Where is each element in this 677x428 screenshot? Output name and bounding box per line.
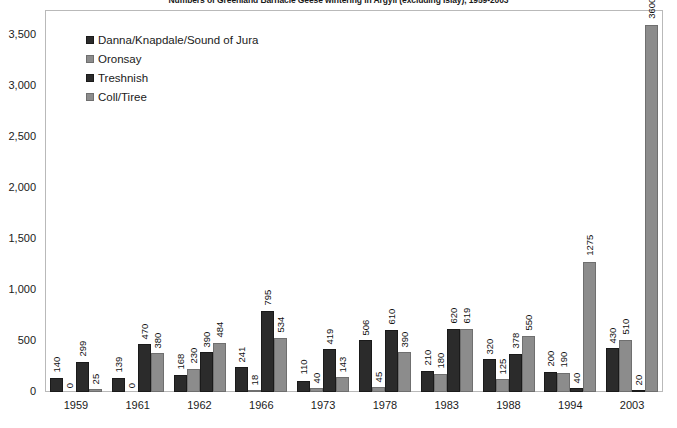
bar-value-label: 619	[460, 304, 473, 327]
bar[interactable]: 190	[557, 10, 570, 392]
bar[interactable]: 140	[50, 10, 63, 392]
bar-rect	[138, 344, 151, 392]
y-tick-label: 2,500	[8, 131, 36, 142]
bar-value-label: 139	[112, 353, 125, 376]
bar-value-label: 200	[544, 347, 557, 370]
bar[interactable]: 210	[421, 10, 434, 392]
bar-rect	[310, 388, 323, 392]
bar-value-label: 430	[606, 324, 619, 347]
bar-value-label: 610	[385, 305, 398, 328]
bar-group: 210180620619	[421, 10, 473, 392]
bar-value-label: 40	[570, 370, 583, 386]
bar[interactable]: 1275	[583, 10, 596, 392]
bar[interactable]: 620	[447, 10, 460, 392]
legend-swatch-icon	[86, 55, 94, 63]
bar-rect	[274, 338, 287, 392]
bar-value-label: 18	[248, 372, 261, 388]
bar-rect	[632, 390, 645, 392]
bar[interactable]: 619	[460, 10, 473, 392]
bar-value-label: 378	[509, 329, 522, 352]
x-tick-label: 1973	[292, 399, 354, 411]
bar-value-label: 510	[619, 315, 632, 338]
x-tick-label: 1966	[230, 399, 292, 411]
bar-rect	[544, 372, 557, 392]
bar-rect	[583, 262, 596, 392]
bar-rect	[261, 311, 274, 392]
bar-rect	[359, 340, 372, 392]
bar-rect	[570, 388, 583, 392]
bar-rect	[385, 330, 398, 392]
bar[interactable]: 550	[522, 10, 535, 392]
legend-swatch-icon	[86, 93, 94, 101]
bar-value-label: 143	[336, 353, 349, 376]
bar-value-label: 140	[50, 353, 63, 376]
y-tick-label: 500	[18, 335, 36, 346]
bar-rect	[200, 352, 213, 392]
bar-value-label: 25	[89, 371, 102, 387]
bar-rect	[606, 348, 619, 392]
legend-item[interactable]: Danna/Knapdale/Sound of Jura	[86, 31, 316, 49]
bar-rect	[522, 336, 535, 392]
legend: Danna/Knapdale/Sound of JuraOronsayTresh…	[86, 31, 316, 107]
bar-rect	[213, 343, 226, 392]
bar-rect	[619, 340, 632, 392]
bar[interactable]: 390	[398, 10, 411, 392]
bar-rect	[557, 373, 570, 392]
bar[interactable]: 143	[336, 10, 349, 392]
x-tick-label: 1994	[539, 399, 601, 411]
bar-value-label: 20	[632, 372, 645, 388]
bar-group: 200190401275	[544, 10, 596, 392]
bar[interactable]: 125	[496, 10, 509, 392]
bar[interactable]: 430	[606, 10, 619, 392]
legend-item[interactable]: Coll/Tiree	[86, 88, 316, 106]
bar-value-label: 795	[261, 286, 274, 309]
bar-value-label: 620	[447, 304, 460, 327]
legend-label: Oronsay	[98, 53, 141, 65]
bar[interactable]: 200	[544, 10, 557, 392]
bar-rect	[76, 362, 89, 392]
bar-value-label: 110	[297, 356, 310, 379]
bar-value-label: 470	[138, 320, 151, 343]
bar-rect	[460, 329, 473, 392]
bar-value-label: 40	[310, 370, 323, 386]
bar-rect	[323, 349, 336, 392]
bar[interactable]: 20	[632, 10, 645, 392]
y-tick-label: 3,000	[8, 80, 36, 91]
bar-value-label: 390	[200, 328, 213, 351]
bar[interactable]: 506	[359, 10, 372, 392]
x-tick-label: 1961	[107, 399, 169, 411]
bar[interactable]: 3600	[645, 10, 658, 392]
page-title: Numbers of Greenland Barnacle Geese wint…	[0, 0, 677, 6]
bar-value-label: 3600	[645, 0, 658, 23]
x-tick-label: 1983	[416, 399, 478, 411]
bar-rect	[174, 375, 187, 392]
bar-rect	[297, 381, 310, 392]
bar[interactable]: 40	[570, 10, 583, 392]
legend-item[interactable]: Oronsay	[86, 50, 316, 68]
bar-rect	[248, 390, 261, 392]
legend-label: Coll/Tiree	[98, 91, 147, 103]
x-tick-label: 1978	[354, 399, 416, 411]
legend-item[interactable]: Treshnish	[86, 69, 316, 87]
bar[interactable]: 610	[385, 10, 398, 392]
bar[interactable]: 0	[63, 10, 76, 392]
bar[interactable]: 378	[509, 10, 522, 392]
bar[interactable]: 180	[434, 10, 447, 392]
bar-value-label: 210	[421, 346, 434, 369]
x-tick-label: 1959	[45, 399, 107, 411]
bar-value-label: 534	[274, 313, 287, 336]
bar-value-label: 190	[557, 348, 570, 371]
bar-value-label: 1275	[583, 231, 596, 260]
bar-value-label: 419	[323, 325, 336, 348]
y-tick-label: 0	[30, 386, 36, 397]
bar[interactable]: 45	[372, 10, 385, 392]
bar-group: 430510203600	[606, 10, 658, 392]
bar-value-label: 506	[359, 316, 372, 339]
bar-value-label: 484	[213, 318, 226, 341]
legend-swatch-icon	[86, 36, 94, 44]
bar-rect	[434, 374, 447, 392]
bar-rect	[496, 379, 509, 392]
bar[interactable]: 510	[619, 10, 632, 392]
bar[interactable]: 419	[323, 10, 336, 392]
bar[interactable]: 320	[483, 10, 496, 392]
